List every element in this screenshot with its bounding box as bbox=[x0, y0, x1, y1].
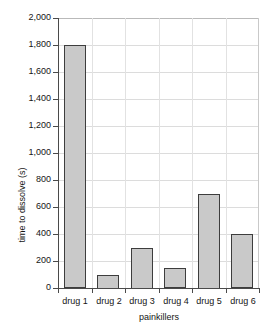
vertical-gridline bbox=[125, 18, 126, 288]
y-axis-tick-label: 200 bbox=[0, 256, 51, 265]
x-axis-tick bbox=[125, 288, 126, 293]
x-axis-tick-label: drug 6 bbox=[226, 296, 260, 306]
y-axis-tick-label: 1,000 bbox=[0, 148, 51, 157]
x-axis-tick bbox=[226, 288, 227, 293]
bar bbox=[231, 234, 253, 288]
vertical-gridline bbox=[159, 18, 160, 288]
x-axis-tick bbox=[159, 288, 160, 293]
y-axis-tick-label: 1,200 bbox=[0, 121, 51, 130]
bar bbox=[64, 45, 86, 288]
y-axis-tick-label: 1,400 bbox=[0, 94, 51, 103]
x-axis-tick bbox=[92, 288, 93, 293]
x-axis-tick bbox=[259, 288, 260, 293]
bar bbox=[131, 248, 153, 289]
y-axis-tick-label: 600 bbox=[0, 202, 51, 211]
x-axis-tick-label: drug 4 bbox=[159, 296, 193, 306]
plot-right-edge bbox=[258, 18, 259, 288]
y-axis-tick-label: 0 bbox=[0, 283, 51, 292]
x-axis-tick-label: drug 3 bbox=[125, 296, 159, 306]
bar bbox=[164, 268, 186, 288]
bar-chart: time to dissolve (s) 02004006008001,0001… bbox=[0, 0, 272, 334]
bar bbox=[198, 194, 220, 289]
vertical-gridline bbox=[92, 18, 93, 288]
y-axis-tick-label: 2,000 bbox=[0, 13, 51, 22]
y-axis-tick-label: 800 bbox=[0, 175, 51, 184]
y-axis-tick-label: 1,800 bbox=[0, 40, 51, 49]
x-axis-tick bbox=[58, 288, 59, 293]
y-axis-tick-label: 1,600 bbox=[0, 67, 51, 76]
y-axis-line bbox=[58, 18, 59, 289]
x-axis-tick-label: drug 2 bbox=[92, 296, 126, 306]
x-axis-tick-label: drug 1 bbox=[58, 296, 92, 306]
vertical-gridline bbox=[192, 18, 193, 288]
x-axis-tick bbox=[192, 288, 193, 293]
y-axis-tick-label: 400 bbox=[0, 229, 51, 238]
vertical-gridline bbox=[226, 18, 227, 288]
x-axis-tick-label: drug 5 bbox=[192, 296, 226, 306]
x-axis-title: painkillers bbox=[58, 312, 260, 322]
plot-area bbox=[58, 18, 259, 288]
bar bbox=[97, 275, 119, 289]
